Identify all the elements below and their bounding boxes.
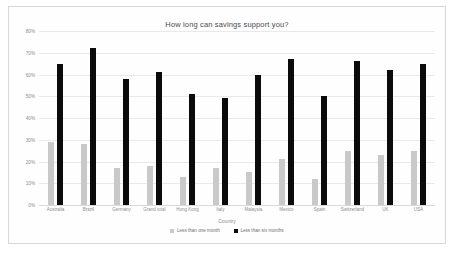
y-axis-tick-label: 50% [26, 94, 35, 99]
bar-group [303, 31, 336, 205]
x-axis-tick-label: Germany [105, 207, 138, 212]
bar-six-months[interactable] [321, 96, 327, 205]
bar-group [105, 31, 138, 205]
x-axis-tick-label: Hong Kong [171, 207, 204, 212]
bar-six-months[interactable] [90, 48, 96, 205]
bar-one-month[interactable] [147, 166, 153, 205]
bar-group [39, 31, 72, 205]
bar-one-month[interactable] [180, 177, 186, 205]
bar-one-month[interactable] [345, 151, 351, 205]
legend-item[interactable]: Less than one month [170, 228, 219, 233]
bar-group [204, 31, 237, 205]
bar-one-month[interactable] [411, 151, 417, 205]
x-axis-tick-label: Switzerland [336, 207, 369, 212]
legend-item[interactable]: Less than six months [234, 228, 284, 233]
y-axis-tick-label: 20% [26, 159, 35, 164]
x-axis-tick-label: Malaysia [237, 207, 270, 212]
plot-area: 80%70%60%50%40%30%20%10%0% [39, 31, 435, 205]
bar-six-months[interactable] [420, 64, 426, 205]
bar-groups [39, 31, 435, 205]
bar-six-months[interactable] [57, 64, 63, 205]
bar-six-months[interactable] [222, 98, 228, 205]
bar-group [270, 31, 303, 205]
bar-one-month[interactable] [114, 168, 120, 205]
bar-six-months[interactable] [354, 61, 360, 205]
legend-label: Less than one month [177, 228, 220, 233]
x-axis-tick-label: Australia [39, 207, 72, 212]
y-axis-tick-label: 60% [26, 72, 35, 77]
bar-one-month[interactable] [312, 179, 318, 205]
bar-six-months[interactable] [255, 75, 261, 206]
bar-group [402, 31, 435, 205]
bar-six-months[interactable] [189, 94, 195, 205]
y-axis-tick-label: 0% [28, 203, 35, 208]
x-axis-tick-label: USA [402, 207, 435, 212]
bar-one-month[interactable] [81, 144, 87, 205]
x-axis-tick-label: Spain [303, 207, 336, 212]
bar-group [336, 31, 369, 205]
bar-six-months[interactable] [387, 70, 393, 205]
bar-six-months[interactable] [123, 79, 129, 205]
bar-one-month[interactable] [246, 172, 252, 205]
chart-title: How long can savings support you? [9, 20, 445, 29]
x-axis-tick-label: Brazil [72, 207, 105, 212]
chart-card: How long can savings support you? 80%70%… [8, 6, 446, 244]
bar-group [171, 31, 204, 205]
y-axis-tick-label: 30% [26, 137, 35, 142]
legend-swatch-icon [234, 229, 238, 233]
x-axis-tick-labels: AustraliaBrazilGermanyGrand totalHong Ko… [39, 207, 435, 212]
y-axis-tick-label: 80% [26, 29, 35, 34]
bar-six-months[interactable] [288, 59, 294, 205]
x-axis-tick-label: Mexico [270, 207, 303, 212]
y-axis-tick-label: 70% [26, 50, 35, 55]
bar-group [369, 31, 402, 205]
bar-group [237, 31, 270, 205]
x-axis-tick-label: Grand total [138, 207, 171, 212]
x-axis-tick-label: Italy [204, 207, 237, 212]
bar-six-months[interactable] [156, 72, 162, 205]
x-axis-title: Country [9, 218, 445, 224]
chart-legend: Less than one monthLess than six months [9, 228, 445, 233]
bar-group [138, 31, 171, 205]
y-axis-tick-label: 10% [26, 181, 35, 186]
bar-one-month[interactable] [48, 142, 54, 205]
bar-one-month[interactable] [279, 159, 285, 205]
y-axis-tick-label: 40% [26, 116, 35, 121]
bar-group [72, 31, 105, 205]
legend-swatch-icon [170, 229, 174, 233]
bar-one-month[interactable] [213, 168, 219, 205]
gridline: 0% [39, 205, 435, 206]
bar-one-month[interactable] [378, 155, 384, 205]
legend-label: Less than six months [240, 228, 283, 233]
x-axis-tick-label: UK [369, 207, 402, 212]
